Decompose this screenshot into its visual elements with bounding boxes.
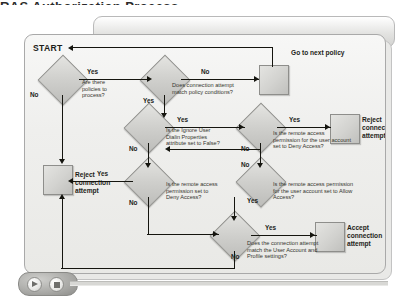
arrow-to-start	[68, 45, 73, 51]
edge-next-policy-up	[272, 47, 273, 67]
arrow-d4-no	[257, 163, 263, 168]
arrow-d1-yes	[147, 76, 152, 82]
edge-d3-no	[148, 143, 149, 165]
label-d4-yes: Yes	[289, 116, 300, 123]
arrow-d6-no	[165, 146, 170, 152]
arrow-d7-yes	[310, 232, 315, 238]
go-to-next-policy-label: Go to next policy	[291, 49, 345, 56]
page-title: RAS Authorization Process	[0, 0, 300, 5]
label-d6-no: No	[241, 161, 250, 168]
decision-policies-to-process-text: Are there policies to process?	[82, 79, 134, 99]
decision-match-policy-conditions-text: Does connection attempt match policy con…	[172, 82, 252, 95]
play-button[interactable]	[27, 277, 42, 292]
process-go-to-next-policy[interactable]	[259, 65, 289, 95]
stop-icon	[54, 282, 60, 288]
edge-d4-yes	[277, 127, 331, 128]
label-d1-no: No	[30, 91, 39, 98]
decision-user-account-deny-access-text: Is the remote access permission for the …	[273, 130, 359, 150]
arrow-d4-yes	[325, 124, 330, 130]
arrow-d5-yes	[68, 178, 73, 184]
arrow-d7-no	[59, 194, 65, 199]
stop-button[interactable]	[49, 277, 64, 292]
process-reject-right-text: Reject connection attempt	[362, 116, 386, 139]
decision-permission-deny-access-text: Is the remote access permission set to D…	[166, 181, 234, 201]
edge-d5-yes	[72, 181, 133, 182]
player-rail[interactable]	[70, 281, 388, 286]
arrow-d3-no	[145, 163, 151, 168]
decision-policies-to-process[interactable]	[38, 55, 89, 106]
slide-player-control[interactable]	[18, 272, 78, 296]
edge-d1-yes	[79, 79, 149, 80]
arrow-d5-no	[213, 231, 218, 237]
label-d3-yes: Yes	[177, 116, 188, 123]
edge-next-policy-to-start	[73, 47, 273, 48]
edge-d7-no-up	[62, 199, 63, 268]
edge-d5-no-right	[147, 234, 219, 235]
label-d1-yes: Yes	[87, 68, 98, 75]
label-d5-no: No	[129, 199, 138, 206]
arrow-d2-no	[254, 76, 259, 82]
decision-match-user-account-profile-text: Does the connection attempt match the Us…	[247, 240, 339, 260]
decision-ignore-user-dialin-text: Is the Ignore User Dialin Properties att…	[166, 127, 236, 147]
edge-d7-yes	[251, 235, 317, 236]
edge-d6-no-left	[169, 149, 261, 150]
screenshot-root: RAS Authorization Process START Go to ne…	[0, 0, 411, 305]
label-d3-no: No	[129, 145, 138, 152]
arrow-d3-yes	[239, 124, 244, 130]
edge-d2-no	[181, 79, 259, 80]
decision-user-account-allow-access-text: Is the remote access permission for the …	[273, 181, 365, 201]
edge-d7-no-left	[61, 268, 234, 269]
label-d5-yes: Yes	[97, 170, 108, 177]
edge-d2-yes	[164, 95, 165, 115]
label-d2-yes: Yes	[143, 97, 154, 104]
arrow-d1-no	[59, 159, 65, 164]
edge-d5-no-down	[148, 197, 149, 234]
start-label: START	[33, 43, 63, 53]
flowchart-canvas: START Go to next policy Are there polici…	[24, 34, 386, 274]
label-d7-yes: Yes	[265, 224, 276, 231]
label-d2-no: No	[201, 68, 210, 75]
edge-d1-no	[62, 95, 63, 160]
edge-d3-yes	[165, 127, 245, 128]
process-reject-left-text: Reject connection attempt	[75, 171, 117, 194]
label-d7-no: No	[231, 253, 240, 260]
label-d6-yes: Yes	[247, 197, 258, 204]
process-accept-text: Accept connection attempt	[347, 224, 386, 247]
edge-d4-no	[260, 143, 261, 165]
arrow-d6-yes	[231, 216, 237, 221]
play-icon	[32, 281, 38, 287]
arrow-d2-yes	[161, 113, 167, 118]
